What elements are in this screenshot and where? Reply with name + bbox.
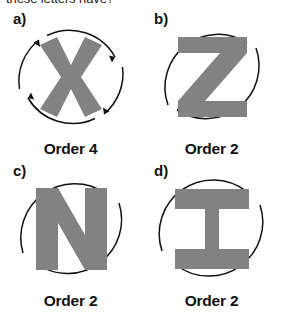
question-text: these letters have?: [6, 0, 114, 6]
panel-b: b) Order 2: [141, 10, 282, 162]
panel-marker-a: a): [13, 10, 26, 27]
rotation-diagram-b: [150, 17, 274, 135]
worksheet-canvas: these letters have? a): [0, 0, 283, 321]
letter-glyph-x: [40, 37, 102, 117]
panel-d: d) Order 2: [141, 162, 282, 314]
panel-marker-d: d): [154, 162, 168, 179]
rotation-diagram-c: [9, 169, 133, 287]
panel-a: a): [0, 10, 141, 162]
panel-marker-b: b): [154, 10, 168, 27]
letter-glyph-n: [36, 188, 107, 270]
rotation-diagram-d: [150, 169, 274, 287]
order-label-b: Order 2: [141, 140, 282, 158]
rotation-diagram-a: [9, 17, 133, 135]
order-label-d: Order 2: [141, 292, 282, 310]
panel-marker-c: c): [13, 162, 26, 179]
order-label-a: Order 4: [0, 140, 141, 158]
panel-c: c) Order 2: [0, 162, 141, 314]
letter-glyph-i: [175, 189, 249, 269]
letter-glyph-z: [178, 37, 247, 117]
order-label-c: Order 2: [0, 292, 141, 310]
